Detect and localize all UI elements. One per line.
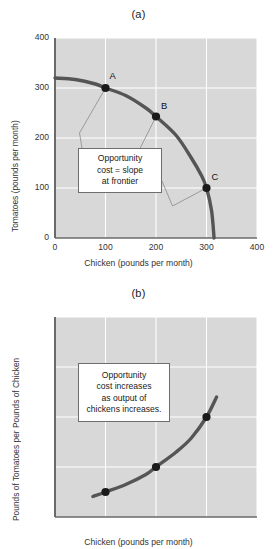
panel-b-x-axis-label: Chicken (pounds per month) bbox=[0, 537, 277, 547]
panel-a-x-tick-300: 300 bbox=[192, 242, 222, 252]
panel-a-point-label-B: B bbox=[161, 100, 167, 111]
panel-a-x-tick-100: 100 bbox=[91, 242, 121, 252]
data-point-c bbox=[202, 413, 210, 421]
panel-a-y-tick-100: 100 bbox=[21, 182, 49, 192]
panel-a-x-tick-0: 0 bbox=[40, 242, 70, 252]
panel-a-annotation-line-3: at frontier bbox=[102, 176, 138, 187]
panel-a-y-tick-0: 0 bbox=[21, 232, 49, 242]
panel-a-annotation-box: Opportunity cost = slope at frontier bbox=[78, 148, 162, 193]
figure-panel-b: (b) Pounds of Tomatoes per Pounds of Chi… bbox=[0, 275, 277, 549]
data-point-B bbox=[152, 112, 160, 120]
panel-b-annotation-line-1: Opportunity bbox=[102, 370, 146, 381]
panel-b-annotation-line-3: as output of bbox=[102, 393, 147, 404]
data-point-a bbox=[101, 488, 109, 496]
panel-b-annotation-line-4: chickens increases. bbox=[87, 404, 162, 415]
panel-a-x-axis-label: Chicken (pounds per month) bbox=[0, 258, 277, 268]
panel-a-y-tick-400: 400 bbox=[21, 32, 49, 42]
panel-a-annotation-line-1: Opportunity bbox=[98, 153, 142, 164]
panel-b-annotation-line-2: cost increases bbox=[97, 381, 152, 392]
data-point-b bbox=[152, 463, 160, 471]
panel-a-point-label-C: C bbox=[212, 171, 219, 182]
panel-b-annotation-box: Opportunity cost increases as output of … bbox=[78, 363, 170, 422]
panel-a-x-tick-400: 400 bbox=[242, 242, 272, 252]
data-point-C bbox=[202, 184, 210, 192]
panel-a-point-label-A: A bbox=[110, 70, 116, 81]
data-point-A bbox=[101, 84, 109, 92]
panel-a-x-tick-200: 200 bbox=[141, 242, 171, 252]
panel-a-y-tick-200: 200 bbox=[21, 132, 49, 142]
panel-a-y-tick-300: 300 bbox=[21, 82, 49, 92]
panel-a-annotation-line-2: cost = slope bbox=[97, 165, 143, 176]
figure-panel-a: (a) Tomatoes (pounds per month) A B C Op… bbox=[0, 0, 277, 275]
